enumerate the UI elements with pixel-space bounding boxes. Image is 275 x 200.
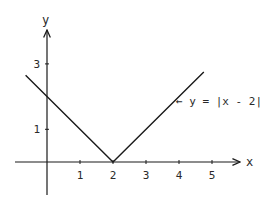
x-axis-label: x <box>246 155 253 169</box>
axis-tick-labels: 1234513 <box>33 58 215 182</box>
axis-ticks <box>45 64 212 164</box>
x-tick-label: 3 <box>143 169 150 182</box>
y-axis-label: y <box>42 13 49 27</box>
x-tick-label: 4 <box>176 169 183 182</box>
function-annotation: ← y = |x - 2| <box>176 95 262 108</box>
x-tick-label: 5 <box>209 169 216 182</box>
absolute-value-graph: 1234513 x y ← y = |x - 2| <box>0 0 275 200</box>
x-tick-label: 2 <box>110 169 117 182</box>
v-shaped-line <box>26 72 204 162</box>
y-tick-label: 1 <box>33 123 40 136</box>
y-tick-label: 3 <box>33 58 40 71</box>
x-tick-label: 1 <box>77 169 84 182</box>
